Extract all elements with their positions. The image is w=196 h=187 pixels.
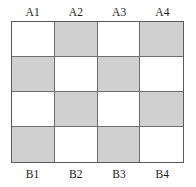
grid-cell-r2c1 bbox=[12, 57, 55, 92]
column-label-b4: B4 bbox=[141, 166, 184, 182]
grid-cell-r4c1 bbox=[12, 127, 55, 162]
grid-cell-r1c3 bbox=[98, 22, 141, 57]
grid-cell-r2c3 bbox=[98, 57, 141, 92]
checkerboard-grid bbox=[11, 21, 184, 163]
grid-cell-r3c3 bbox=[98, 92, 141, 127]
column-label-a4: A4 bbox=[141, 4, 184, 20]
column-label-b3: B3 bbox=[98, 166, 141, 182]
grid-cell-r4c3 bbox=[98, 127, 141, 162]
grid-cell-r1c4 bbox=[140, 22, 183, 57]
column-label-a1: A1 bbox=[11, 4, 54, 20]
top-column-labels: A1 A2 A3 A4 bbox=[11, 4, 184, 20]
column-label-b1: B1 bbox=[11, 166, 54, 182]
bottom-column-labels: B1 B2 B3 B4 bbox=[11, 166, 184, 182]
grid-cell-r1c1 bbox=[12, 22, 55, 57]
grid-cell-r3c4 bbox=[140, 92, 183, 127]
grid-cell-r2c4 bbox=[140, 57, 183, 92]
checkerboard-figure: A1 A2 A3 A4 B1 B2 B3 B4 bbox=[0, 0, 196, 187]
grid-cell-r4c2 bbox=[55, 127, 98, 162]
column-label-a2: A2 bbox=[54, 4, 97, 20]
grid-cell-r3c2 bbox=[55, 92, 98, 127]
grid-cell-r1c2 bbox=[55, 22, 98, 57]
column-label-b2: B2 bbox=[54, 166, 97, 182]
grid-cell-r2c2 bbox=[55, 57, 98, 92]
grid-cell-r4c4 bbox=[140, 127, 183, 162]
grid-cell-r3c1 bbox=[12, 92, 55, 127]
column-label-a3: A3 bbox=[98, 4, 141, 20]
